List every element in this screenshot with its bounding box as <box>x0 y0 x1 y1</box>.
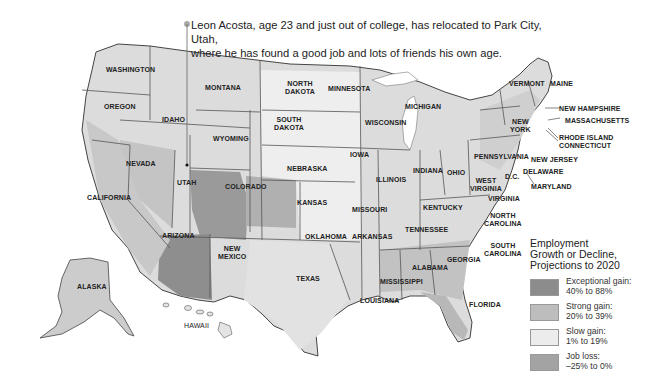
legend-swatch-exceptional <box>530 279 559 296</box>
label-north-carolina: NORTHCAROLINA <box>484 212 522 228</box>
label-indiana: INDIANA <box>413 167 443 175</box>
callout-caption: Leon Acosta, age 23 and just out of coll… <box>191 18 571 60</box>
legend-title: Employment Growth or Decline, Projection… <box>530 238 645 271</box>
legend-item-job-loss: Job loss:–25% to 0% <box>530 352 645 371</box>
label-west-virginia: WESTVIRGINIA <box>470 177 502 193</box>
label-maine: MAINE <box>550 80 573 88</box>
label-colorado: COLORADO <box>225 183 267 191</box>
label-pennsylvania: PENNSYLVANIA <box>474 153 529 161</box>
label-minnesota: MINNESOTA <box>328 85 370 93</box>
label-north-dakota: NORTHDAKOTA <box>285 80 315 96</box>
callout-line-2: where he has found a good job and lots o… <box>191 46 571 60</box>
label-georgia: GEORGIA <box>447 256 481 264</box>
label-california: CALIFORNIA <box>87 194 131 202</box>
label-massachusetts: MASSACHUSETTS <box>565 117 629 125</box>
label-hawaii: HAWAII <box>184 322 209 330</box>
hawaii-shape <box>163 303 232 338</box>
label-wisconsin: WISCONSIN <box>365 119 406 127</box>
label-texas: TEXAS <box>296 275 320 283</box>
utah-region-shading <box>190 170 248 240</box>
label-new-hampshire: NEW HAMPSHIRE <box>559 105 621 113</box>
label-connecticut: CONNECTICUT <box>559 142 611 150</box>
legend-swatch-strong <box>530 304 559 321</box>
label-south-carolina: SOUTHCAROLINA <box>484 242 522 258</box>
legend-swatch-job-loss <box>530 354 559 371</box>
legend-item-exceptional-gain: Exceptional gain:40% to 88% <box>530 277 645 296</box>
label-oregon: OREGON <box>104 103 136 111</box>
label-nebraska: NEBRASKA <box>287 165 327 173</box>
label-wyoming: WYOMING <box>213 135 249 143</box>
label-new-jersey: NEW JERSEY <box>531 156 578 164</box>
label-kansas: KANSAS <box>297 199 327 207</box>
legend-swatch-slow <box>530 329 559 346</box>
label-dc: D.C. <box>505 173 519 181</box>
label-new-york: NEWYORK <box>510 118 531 134</box>
label-ohio: OHIO <box>447 169 465 177</box>
label-new-mexico: NEWMEXICO <box>218 245 246 261</box>
label-nevada: NEVADA <box>126 160 156 168</box>
label-rhode-island: RHODE ISLAND <box>559 134 613 142</box>
alaska-shape <box>40 258 134 338</box>
label-south-dakota: SOUTHDAKOTA <box>274 116 304 132</box>
legend: Employment Growth or Decline, Projection… <box>530 238 645 371</box>
label-idaho: IDAHO <box>162 116 185 124</box>
label-florida: FLORIDA <box>469 301 501 309</box>
label-montana: MONTANA <box>205 84 241 92</box>
legend-item-slow-gain: Slow gain:1% to 19% <box>530 327 645 346</box>
label-mississippi: MISSISSIPPI <box>380 278 423 286</box>
label-virginia: VIRGINIA <box>488 195 520 203</box>
park-city-marker-icon <box>185 163 188 166</box>
label-arkansas: ARKANSAS <box>352 233 392 241</box>
label-utah: UTAH <box>177 179 196 187</box>
label-delaware: DELAWARE <box>523 168 563 176</box>
label-missouri: MISSOURI <box>352 206 387 214</box>
label-alaska: ALASKA <box>77 283 107 291</box>
label-washington: WASHINGTON <box>106 66 155 74</box>
label-iowa: IOWA <box>350 151 369 159</box>
label-michigan: MICHIGAN <box>405 103 441 111</box>
legend-item-strong-gain: Strong gain:20% to 39% <box>530 302 645 321</box>
label-kentucky: KENTUCKY <box>423 204 463 212</box>
label-arizona: ARIZONA <box>162 232 195 240</box>
label-louisiana: LOUISIANA <box>360 297 399 305</box>
texas-shading <box>244 240 348 350</box>
label-alabama: ALABAMA <box>412 264 448 272</box>
label-oklahoma: OKLAHOMA <box>305 233 347 241</box>
label-tennessee: TENNESSEE <box>405 226 448 234</box>
label-illinois: ILLINOIS <box>376 176 406 184</box>
label-vermont: VERMONT <box>509 80 545 88</box>
callout-line-1: Leon Acosta, age 23 and just out of coll… <box>191 18 571 46</box>
label-maryland: MARYLAND <box>531 183 572 191</box>
